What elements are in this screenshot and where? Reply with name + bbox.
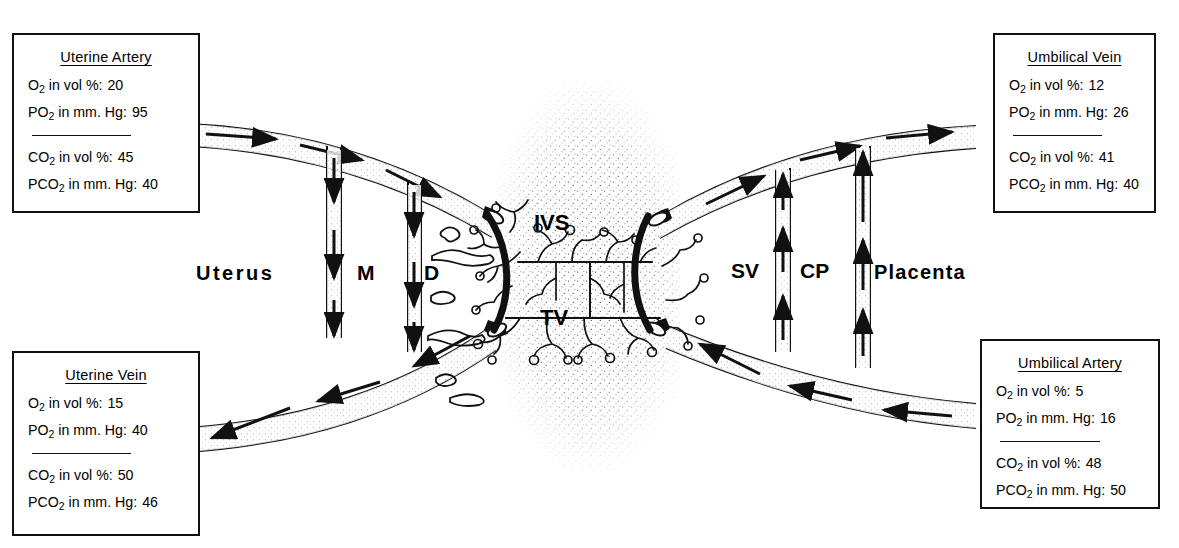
diagram-canvas: Uterus M D IVS TV SV CP Placenta Uterine… — [0, 0, 1179, 548]
unit-text: in mm. Hg: — [54, 422, 127, 438]
unit-text: in mm. Hg: — [1022, 410, 1095, 426]
analyte-name: PCO — [28, 176, 59, 192]
measurement-value: 50 — [118, 467, 134, 483]
measurement-value: 5 — [1075, 383, 1083, 399]
unit-text: in vol %: — [45, 395, 103, 411]
measurement-row: PO2 in mm. Hg:95 — [28, 104, 186, 122]
measurement-value: 95 — [132, 104, 148, 120]
unit-text: in mm. Hg: — [65, 176, 138, 192]
box-divider — [1013, 135, 1102, 136]
analyte-name: PO — [1009, 104, 1030, 120]
measurement-value: 41 — [1099, 149, 1115, 165]
box-divider — [32, 135, 131, 136]
measurement-row: PO2 in mm. Hg:16 — [996, 410, 1146, 428]
measurement-row: CO2 in vol %:50 — [28, 467, 186, 485]
measurement-value: 45 — [118, 149, 134, 165]
analyte-name: O — [28, 77, 39, 93]
unit-text: in mm. Hg: — [1046, 176, 1119, 192]
uterine-artery-vessel — [188, 124, 505, 237]
measurement-value: 48 — [1086, 455, 1102, 471]
analyte-name: O — [28, 395, 39, 411]
analyte-name: CO — [28, 467, 49, 483]
unit-text: in vol %: — [1013, 383, 1071, 399]
analyte-name: CO — [996, 455, 1017, 471]
box-title: Umbilical Vein — [1007, 49, 1142, 65]
uterine-vein-vessel — [188, 320, 508, 452]
data-box-uterine-vein: Uterine Vein O2 in vol %:15PO2 in mm. Hg… — [12, 351, 200, 536]
analyte-name: CO — [1009, 149, 1030, 165]
box-title: Umbilical Artery — [994, 355, 1146, 371]
measurement-value: 40 — [132, 422, 148, 438]
measurement-row: PO2 in mm. Hg:26 — [1009, 104, 1142, 122]
analyte-name: PO — [996, 410, 1017, 426]
label-decidua: D — [424, 261, 439, 285]
measurement-row: PCO2 in mm. Hg:46 — [28, 494, 186, 512]
label-placenta: Placenta — [874, 261, 966, 284]
measurement-value: 16 — [1100, 410, 1116, 426]
label-chorionic-plate: CP — [800, 259, 829, 283]
measurement-row: O2 in vol %:15 — [28, 395, 186, 413]
unit-text: in vol %: — [1023, 455, 1081, 471]
measurement-value: 15 — [107, 395, 123, 411]
label-terminal-villi: TV — [540, 305, 568, 331]
analyte-name: PCO — [996, 482, 1027, 498]
umbilical-vein-vessel — [647, 126, 976, 238]
label-uterus: Uterus — [196, 262, 274, 285]
measurement-row: PCO2 in mm. Hg:40 — [1009, 176, 1142, 194]
unit-text: in mm. Hg: — [1033, 482, 1106, 498]
analyte-name: O — [1009, 77, 1020, 93]
measurement-value: 20 — [107, 77, 123, 93]
unit-text: in vol %: — [55, 149, 113, 165]
box-title: Uterine Vein — [26, 367, 186, 383]
measurement-row: O2 in vol %:12 — [1009, 77, 1142, 95]
box-rows: O2 in vol %:15PO2 in mm. Hg:40CO2 in vol… — [26, 395, 186, 512]
label-intervillous-space: IVS — [534, 210, 569, 236]
measurement-value: 40 — [1123, 176, 1139, 192]
analyte-name: PCO — [1009, 176, 1040, 192]
measurement-row: O2 in vol %:20 — [28, 77, 186, 95]
unit-text: in vol %: — [55, 467, 113, 483]
fetal-vein-branches — [776, 146, 870, 368]
measurement-row: CO2 in vol %:41 — [1009, 149, 1142, 167]
box-divider — [1000, 441, 1100, 442]
box-divider — [32, 453, 131, 454]
box-title: Uterine Artery — [26, 49, 186, 65]
data-box-umbilical-vein: Umbilical Vein O2 in vol %:12PO2 in mm. … — [993, 33, 1156, 213]
measurement-value: 50 — [1110, 482, 1126, 498]
analyte-name: PCO — [28, 494, 59, 510]
measurement-row: CO2 in vol %:45 — [28, 149, 186, 167]
measurement-row: PCO2 in mm. Hg:50 — [996, 482, 1146, 500]
measurement-row: PCO2 in mm. Hg:40 — [28, 176, 186, 194]
label-subchorial-space: SV — [731, 259, 759, 283]
data-box-uterine-artery: Uterine Artery O2 in vol %:20PO2 in mm. … — [12, 33, 200, 213]
measurement-value: 40 — [142, 176, 158, 192]
label-myometrium: M — [357, 261, 375, 285]
unit-text: in mm. Hg: — [1035, 104, 1108, 120]
umbilical-artery-vessel — [645, 318, 976, 428]
measurement-value: 12 — [1088, 77, 1104, 93]
measurement-value: 26 — [1113, 104, 1129, 120]
unit-text: in vol %: — [1036, 149, 1094, 165]
box-rows: O2 in vol %:20PO2 in mm. Hg:95CO2 in vol… — [26, 77, 186, 194]
unit-text: in mm. Hg: — [65, 494, 138, 510]
analyte-name: PO — [28, 422, 49, 438]
measurement-value: 46 — [142, 494, 158, 510]
unit-text: in vol %: — [1026, 77, 1084, 93]
analyte-name: O — [996, 383, 1007, 399]
unit-text: in vol %: — [45, 77, 103, 93]
box-rows: O2 in vol %:5PO2 in mm. Hg:16CO2 in vol … — [994, 383, 1146, 500]
analyte-name: PO — [28, 104, 49, 120]
measurement-row: O2 in vol %:5 — [996, 383, 1146, 401]
measurement-row: PO2 in mm. Hg:40 — [28, 422, 186, 440]
intervillous-space-stipple — [495, 80, 680, 470]
unit-text: in mm. Hg: — [54, 104, 127, 120]
data-box-umbilical-artery: Umbilical Artery O2 in vol %:5PO2 in mm.… — [980, 339, 1160, 509]
box-rows: O2 in vol %:12PO2 in mm. Hg:26CO2 in vol… — [1007, 77, 1142, 194]
measurement-row: CO2 in vol %:48 — [996, 455, 1146, 473]
analyte-name: CO — [28, 149, 49, 165]
